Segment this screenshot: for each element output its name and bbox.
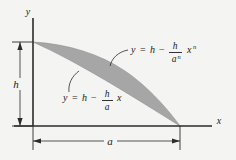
- curve-equation-fraction-denominator: a: [172, 54, 177, 64]
- curve-equation-minus: −: [159, 44, 165, 55]
- y-axis-label: y: [25, 6, 31, 17]
- x-axis-label: x: [216, 115, 222, 126]
- curve-equation-factor: x: [186, 44, 192, 55]
- figure-container: y x h a y =: [0, 0, 236, 160]
- curve-equation-denominator-exponent: n: [177, 53, 180, 60]
- curve-equation-factor-exponent: n: [193, 43, 196, 50]
- line-equation-minus: −: [91, 92, 97, 103]
- line-equation-lhs: y: [62, 92, 68, 103]
- height-dimension-label: h: [13, 78, 19, 90]
- line-equation-factor: x: [116, 92, 122, 103]
- curve-equation-term1: h: [150, 44, 155, 55]
- line-equation-term1: h: [82, 92, 87, 103]
- line-equation-fraction-numerator: h: [105, 89, 110, 99]
- width-dimension-label: a: [107, 135, 113, 147]
- line-equation-equals: =: [72, 92, 78, 103]
- area-between-curves-figure: y x h a y =: [0, 0, 236, 160]
- curve-equation-equals: =: [140, 44, 146, 55]
- curve-equation-fraction-numerator: h: [173, 41, 178, 51]
- curve-equation-lhs: y: [130, 44, 136, 55]
- line-equation-fraction-denominator: a: [105, 102, 110, 112]
